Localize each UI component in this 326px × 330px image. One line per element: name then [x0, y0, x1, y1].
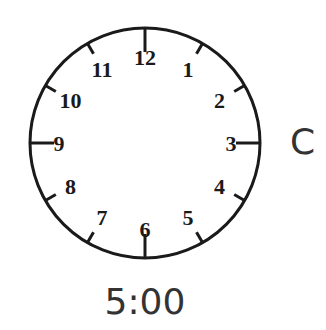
numeral-7: 7 — [97, 205, 108, 230]
hour-tick-8 — [45, 195, 55, 201]
hour-tick-4 — [234, 195, 244, 201]
hour-tick-7 — [88, 232, 94, 242]
numeral-11: 11 — [92, 57, 113, 82]
numeral-4: 4 — [214, 174, 225, 199]
numeral-9: 9 — [54, 131, 65, 156]
numeral-12: 12 — [134, 45, 156, 70]
hour-tick-11 — [88, 43, 94, 53]
numeral-2: 2 — [214, 88, 225, 113]
time-label: 5:00 — [0, 280, 290, 324]
hour-tick-1 — [197, 43, 203, 53]
hour-numerals: 121234567891011 — [54, 45, 237, 242]
numeral-8: 8 — [65, 174, 76, 199]
hour-tick-10 — [45, 86, 55, 92]
numeral-10: 10 — [60, 88, 82, 113]
hour-tick-2 — [234, 86, 244, 92]
numeral-6: 6 — [140, 217, 151, 242]
numeral-3: 3 — [226, 131, 237, 156]
option-label: C — [290, 122, 315, 162]
numeral-1: 1 — [183, 57, 194, 82]
numeral-5: 5 — [183, 205, 194, 230]
hour-tick-5 — [197, 232, 203, 242]
